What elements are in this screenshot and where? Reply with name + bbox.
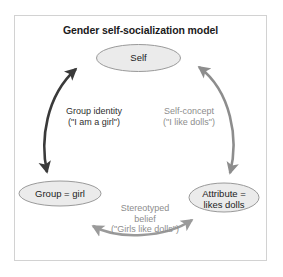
diagram-canvas <box>0 0 283 277</box>
edge-group-identity-label: Group identity ("I am a girl") <box>48 106 140 127</box>
edge-self-concept-label: Self-concept ("I like dolls") <box>146 106 232 127</box>
node-attribute-label-line1: Attribute = <box>188 188 260 199</box>
edge-stereotyped-belief-label-line2: belief <box>92 214 198 225</box>
edge-stereotyped-belief-label: Stereotyped belief ("Girls like dolls") <box>92 203 198 235</box>
edge-stereotyped-belief-label-line1: Stereotyped <box>92 203 198 214</box>
edge-group-identity-label-line1: Group identity <box>48 106 140 117</box>
edge-stereotyped-belief-label-line3: ("Girls like dolls") <box>92 224 198 235</box>
node-self-label-line1: Self <box>96 52 181 63</box>
edge-self-concept-label-line2: ("I like dolls") <box>146 117 232 128</box>
node-group-label-line1: Group = girl <box>18 188 102 199</box>
figure-container: Gender self-socialization model Self G <box>0 0 283 277</box>
node-self-label: Self <box>96 52 181 63</box>
node-attribute-label: Attribute = likes dolls <box>188 188 260 210</box>
node-attribute-label-line2: likes dolls <box>188 199 260 210</box>
node-group-label: Group = girl <box>18 188 102 199</box>
edge-group-identity-label-line2: ("I am a girl") <box>48 117 140 128</box>
edge-self-concept-label-line1: Self-concept <box>146 106 232 117</box>
